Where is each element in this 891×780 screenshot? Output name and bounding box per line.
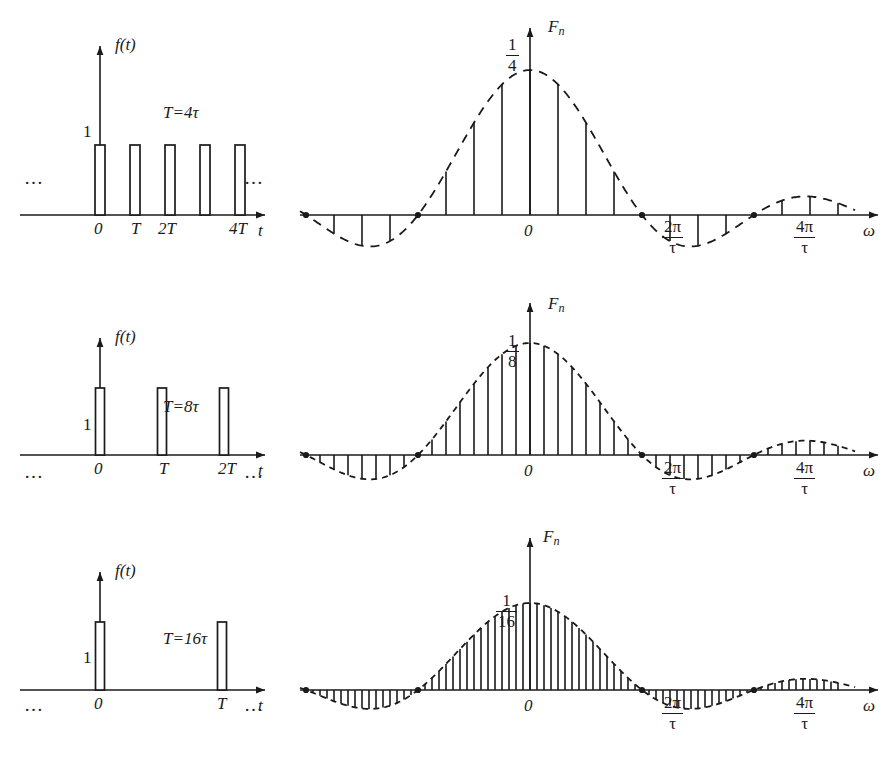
time-domain-ylabel-row-1: f(t) [115, 36, 136, 53]
zero-2-denominator-row-3: τ [794, 713, 815, 733]
pulse-0-row-1 [95, 145, 105, 215]
envelope-zero-dot-row-1 [751, 212, 757, 218]
spectrum-zero-label-2-row-2: 4π τ [794, 459, 815, 498]
spectrum-zero-label-1-row-2: 2π τ [662, 459, 683, 498]
frequency-axis-row-3-arrowhead [869, 687, 878, 694]
time-domain-ylabel-row-2: f(t) [115, 328, 136, 345]
peak-denominator-row-1: 4 [506, 55, 519, 75]
time-axis-row-3-arrowhead [256, 687, 265, 694]
spectrum-ylabel-row-2: Fn [548, 295, 565, 315]
spectrum-ylabel-sub-row-2: n [558, 301, 564, 315]
envelope-zero-dot-row-3 [303, 687, 309, 693]
panel-row-1: f(t) 1 T=4τ … … t 0 T 2T 4T Fn 1 4 0 [0, 0, 891, 260]
spectrum-ylabel-sub-row-3: n [553, 534, 559, 548]
time-tick-label-2-row-1: 2T [158, 220, 176, 237]
pulse-0-row-3 [96, 622, 105, 690]
time-domain-plot-row-3: f(t) 1 T=16τ … … t 0 T [0, 500, 300, 780]
time-domain-plot-row-1: f(t) 1 T=4τ … … t 0 T 2T 4T [0, 0, 300, 260]
time-tick-label-3-row-1: 4T [229, 220, 247, 237]
zero-2-denominator-row-2: τ [794, 478, 815, 498]
time-tick-label-1-row-3: T [217, 695, 226, 712]
envelope-zero-dot-row-1 [415, 212, 421, 218]
zero-1-denominator-row-3: τ [662, 713, 683, 733]
zero-1-denominator-row-1: τ [662, 237, 683, 257]
envelope-zero-dot-row-3 [415, 687, 421, 693]
sinc-envelope-row-2 [300, 343, 855, 479]
zero-2-numerator-row-2: 4π [794, 459, 815, 478]
time-tick-label-1-row-2: T [159, 460, 168, 477]
zero-2-numerator-row-3: 4π [794, 694, 815, 713]
pulse-2-row-1 [165, 145, 175, 215]
peak-numerator-row-2: 1 [506, 332, 519, 351]
pulse-3-row-1 [200, 145, 210, 215]
sinc-envelope-row-1 [300, 70, 855, 247]
amplitude-axis-row-1-arrowhead [97, 46, 104, 55]
pulse-0-row-2 [96, 388, 105, 455]
time-tick-label-0-row-3: 0 [94, 695, 103, 712]
fourier-spectrum-figure: f(t) 1 T=4τ … … t 0 T 2T 4T Fn 1 4 0 [0, 0, 891, 780]
envelope-zero-dot-row-1 [303, 212, 309, 218]
spectrum-plot-row-1: Fn 1 4 0 2π τ 4π τ ω [300, 0, 891, 260]
time-tick-label-0-row-1: 0 [94, 220, 103, 237]
time-domain-ylabel-row-3: f(t) [115, 562, 136, 579]
zero-2-denominator-row-1: τ [794, 237, 815, 257]
time-axis-row-1-arrowhead [256, 212, 265, 219]
spectrum-zero-label-2-row-1: 4π τ [794, 218, 815, 257]
frequency-axis-row-2-arrowhead [869, 452, 878, 459]
time-domain-xlabel-row-2: t [258, 462, 263, 479]
time-tick-label-0-row-2: 0 [94, 460, 103, 477]
period-label-row-2: T=8τ [163, 398, 199, 415]
spectrum-peak-label-row-3: 1 16 [496, 592, 517, 631]
spectrum-zero-label-1-row-1: 2π τ [662, 218, 683, 257]
left-ellipsis-row-1: … [24, 168, 45, 187]
zero-1-numerator-row-2: 2π [662, 459, 683, 478]
spectrum-xlabel-row-2: ω [863, 462, 875, 479]
magnitude-axis-row-1-arrowhead [527, 28, 534, 37]
time-domain-svg-row-3 [0, 500, 300, 780]
time-domain-svg-row-1 [0, 0, 300, 260]
time-tick-label-2-row-2: 2T [218, 460, 236, 477]
amplitude-label-row-3: 1 [83, 649, 92, 666]
time-domain-plot-row-2: f(t) 1 T=8τ … … t 0 T 2T [0, 255, 300, 510]
zero-1-numerator-row-3: 2π [662, 694, 683, 713]
envelope-zero-dot-row-1 [639, 212, 645, 218]
amplitude-label-row-1: 1 [83, 123, 92, 140]
spectrum-zero-label-2-row-3: 4π τ [794, 694, 815, 733]
zero-2-numerator-row-1: 4π [794, 218, 815, 237]
spectrum-origin-label-row-3: 0 [524, 697, 533, 714]
time-domain-xlabel-row-3: t [258, 697, 263, 714]
spectrum-peak-label-row-1: 1 4 [506, 36, 519, 75]
time-domain-xlabel-row-1: t [258, 222, 263, 239]
spectrum-peak-label-row-2: 1 8 [506, 332, 519, 371]
pulse-1-row-1 [130, 145, 140, 215]
spectrum-svg-row-3 [300, 500, 891, 780]
spectrum-zero-label-1-row-3: 2π τ [662, 694, 683, 733]
peak-denominator-row-2: 8 [506, 351, 519, 371]
spectrum-plot-row-3: Fn 1 16 0 2π τ 4π τ ω [300, 500, 891, 780]
peak-numerator-row-3: 1 [496, 592, 517, 611]
period-label-row-1: T=4τ [163, 104, 199, 121]
spectrum-xlabel-row-3: ω [863, 697, 875, 714]
panel-row-2: f(t) 1 T=8τ … … t 0 T 2T Fn 1 8 0 2π [0, 255, 891, 510]
magnitude-axis-row-2-arrowhead [527, 303, 534, 312]
envelope-zero-dot-row-2 [639, 452, 645, 458]
time-axis-row-2-arrowhead [256, 452, 265, 459]
envelope-zero-dot-row-2 [415, 452, 421, 458]
period-label-row-3: T=16τ [163, 630, 207, 647]
pulse-1-row-3 [218, 622, 227, 690]
amplitude-axis-row-2-arrowhead [97, 338, 104, 347]
spectrum-ylabel-main-row-2: F [548, 294, 558, 313]
left-ellipsis-row-3: … [24, 695, 45, 714]
spectrum-ylabel-main-row-3: F [543, 527, 553, 546]
spectrum-xlabel-row-1: ω [863, 222, 875, 239]
amplitude-label-row-2: 1 [83, 416, 92, 433]
zero-1-denominator-row-2: τ [662, 478, 683, 498]
peak-denominator-row-3: 16 [496, 611, 517, 631]
spectrum-origin-label-row-2: 0 [524, 462, 533, 479]
spectrum-plot-row-2: Fn 1 8 0 2π τ 4π τ ω [300, 255, 891, 510]
right-ellipsis-row-1: … [244, 168, 265, 187]
envelope-zero-dot-row-2 [751, 452, 757, 458]
amplitude-axis-row-3-arrowhead [97, 572, 104, 581]
pulse-2-row-2 [220, 388, 229, 455]
envelope-zero-dot-row-2 [303, 452, 309, 458]
